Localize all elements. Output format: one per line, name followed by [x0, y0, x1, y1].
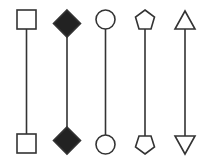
- triangle-connector: [175, 11, 195, 154]
- triangle-down-icon: [175, 136, 195, 154]
- pentagon-top-icon: [136, 10, 155, 29]
- triangle-up-icon: [175, 11, 195, 29]
- circle-top-icon: [96, 10, 115, 29]
- diamond-connector: [54, 10, 81, 154]
- circle-bottom-icon: [96, 135, 115, 154]
- diamond-top-icon: [54, 10, 81, 37]
- circle-connector: [96, 10, 115, 154]
- pentagon-bottom-icon: [136, 136, 155, 154]
- square-top-icon: [17, 10, 36, 29]
- pentagon-connector: [136, 10, 155, 154]
- connector-markers-diagram: [0, 0, 208, 161]
- square-connector: [17, 10, 36, 153]
- diamond-bottom-icon: [54, 127, 81, 154]
- square-bottom-icon: [17, 134, 36, 153]
